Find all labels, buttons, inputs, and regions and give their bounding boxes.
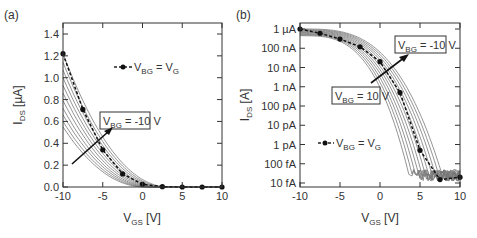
panel-b-ylabel: IDS [A] [238, 89, 254, 121]
panel-a-xlabel: VGS [V] [123, 211, 161, 227]
y-tick-label: 10 pA [267, 119, 296, 131]
data-point [80, 107, 85, 112]
y-tick-label: 1.0 [44, 72, 59, 84]
panel-b-annotation-bottom: VBG = 10 V [332, 54, 409, 105]
x-tick-label: 0 [139, 190, 145, 202]
panel-a-frame [63, 23, 222, 187]
data-point [337, 36, 342, 41]
y-tick-label: 0.8 [44, 94, 59, 106]
panel-a-legend: VBG = VG [114, 61, 179, 76]
y-tick-label: 1.4 [44, 28, 59, 40]
panel-a: (a) -10-505100.00.20.40.60.81.01.21.4 ID… [4, 8, 228, 227]
y-tick-label: 0.0 [44, 181, 59, 193]
data-point [357, 44, 362, 49]
data-point [437, 177, 442, 182]
x-tick-label: -5 [335, 190, 345, 202]
data-point [120, 171, 125, 176]
x-tick-label: -10 [292, 190, 308, 202]
y-tick-label: 10 fA [270, 177, 296, 189]
panel-a-label: (a) [4, 8, 19, 22]
y-tick-label: 0.2 [44, 159, 59, 171]
data-point [100, 147, 105, 152]
chart-figure: (a) -10-505100.00.20.40.60.81.01.21.4 ID… [0, 0, 477, 238]
panel-b-label: (b) [236, 8, 251, 22]
x-tick-label: 5 [417, 190, 423, 202]
data-point [377, 59, 382, 64]
panel-b-annotation-top: VBG = -10 V [395, 36, 456, 54]
panel-b: (b) -10-505101 µA100 nA10 nA1 nA100 pA10… [236, 8, 466, 227]
x-tick-label: 10 [216, 190, 228, 202]
panel-b-legend-text: VBG = VG [336, 137, 381, 152]
panel-a-legend-text: VBG = VG [134, 61, 179, 76]
panel-b-xlabel: VGS [V] [361, 211, 399, 227]
y-tick-label: 1 µA [273, 23, 297, 35]
panel-b-legend: VBG = VG [318, 137, 381, 152]
data-point [317, 31, 322, 36]
data-point [417, 148, 422, 153]
y-tick-label: 1 nA [273, 81, 296, 93]
x-tick-label: 10 [454, 190, 466, 202]
panel-a-ylabel: IDS [µA] [11, 85, 27, 124]
x-tick-label: 0 [377, 190, 383, 202]
y-tick-label: 100 fA [264, 158, 296, 170]
x-tick-label: -5 [98, 190, 108, 202]
y-tick-label: 100 pA [261, 100, 297, 112]
y-tick-label: 1 pA [273, 139, 296, 151]
y-tick-label: 100 nA [261, 42, 297, 54]
y-tick-label: 10 nA [267, 62, 296, 74]
data-point [397, 90, 402, 95]
y-tick-label: 0.4 [44, 137, 59, 149]
y-tick-label: 1.2 [44, 50, 59, 62]
y-tick-label: 0.6 [44, 115, 59, 127]
x-tick-label: 5 [179, 190, 185, 202]
